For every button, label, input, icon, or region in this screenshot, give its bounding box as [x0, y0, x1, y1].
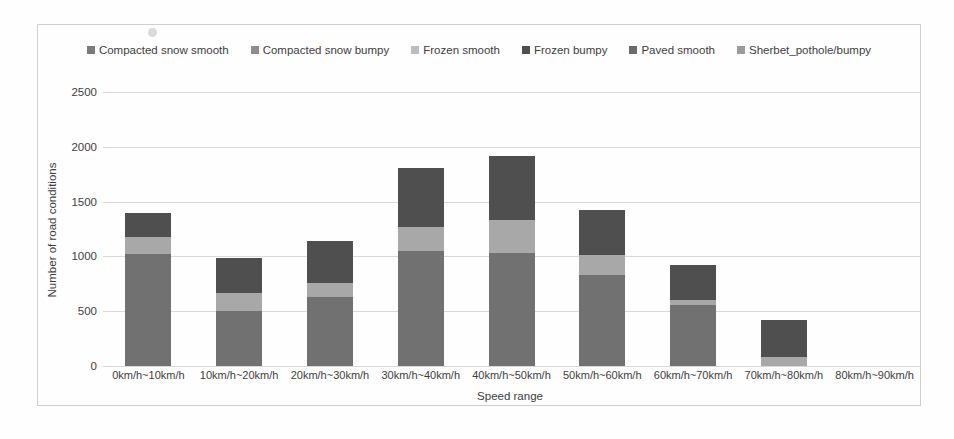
bar-segment — [216, 311, 262, 366]
x-axis-tick-label: 30km/h~40km/h — [381, 369, 460, 381]
y-axis-tick-label: 0 — [45, 360, 97, 372]
y-axis-tick-label: 1000 — [45, 250, 97, 262]
bar-segment — [398, 168, 444, 228]
bar-segment — [670, 265, 716, 300]
bar-segment — [579, 255, 625, 275]
plot-wrapper: 05001000150020002500 0km/h~10km/h10km/h~… — [0, 0, 954, 439]
bar-stack — [670, 265, 716, 366]
x-axis-title: Speed range — [100, 390, 920, 402]
bar-segment — [489, 220, 535, 253]
bar-segment — [125, 237, 171, 254]
bar-stack — [307, 241, 353, 366]
bar-segment — [761, 357, 807, 366]
x-axis-tick-label: 60km/h~70km/h — [654, 369, 733, 381]
x-axis-tick-label: 0km/h~10km/h — [112, 369, 184, 381]
bar-stack — [216, 258, 262, 366]
bar-segment — [216, 258, 262, 294]
x-axis-tick-label: 20km/h~30km/h — [291, 369, 370, 381]
bar-segment — [307, 241, 353, 283]
bar-stack — [489, 156, 535, 366]
x-axis-tick-label: 40km/h~50km/h — [472, 369, 551, 381]
bar-segment — [125, 213, 171, 238]
bar-segment — [579, 210, 625, 255]
y-axis-tick-labels: 05001000150020002500 — [41, 92, 97, 366]
bar-segment — [489, 156, 535, 221]
bar-stack — [398, 168, 444, 366]
bar-segment — [761, 320, 807, 357]
x-axis-tick-labels: 0km/h~10km/h10km/h~20km/h20km/h~30km/h30… — [103, 369, 920, 387]
y-axis-tick-label: 500 — [45, 305, 97, 317]
x-axis-tick-label: 50km/h~60km/h — [563, 369, 642, 381]
x-axis-tick-label: 80km/h~90km/h — [835, 369, 914, 381]
bar-segment — [307, 297, 353, 366]
y-axis-tick-label: 1500 — [45, 196, 97, 208]
gridline — [103, 147, 920, 148]
y-axis-tick-label: 2500 — [45, 86, 97, 98]
bar-segment — [579, 275, 625, 366]
bar-segment — [398, 251, 444, 366]
x-axis-tick-label: 70km/h~80km/h — [745, 369, 824, 381]
bar-segment — [125, 254, 171, 366]
y-axis-tick-label: 2000 — [45, 141, 97, 153]
x-axis-tick-label: 10km/h~20km/h — [200, 369, 279, 381]
bar-segment — [489, 253, 535, 366]
bar-stack — [761, 320, 807, 366]
plot-area — [103, 92, 920, 366]
bar-segment — [398, 227, 444, 251]
bar-stack — [579, 210, 625, 366]
gridline — [103, 92, 920, 93]
bar-segment — [670, 305, 716, 366]
gridline — [103, 366, 920, 367]
bar-stack — [125, 213, 171, 366]
bar-segment — [307, 283, 353, 297]
bar-segment — [216, 293, 262, 311]
